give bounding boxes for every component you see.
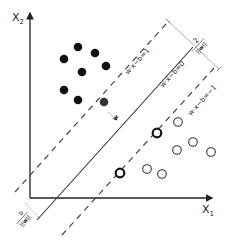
data-point bbox=[74, 96, 83, 105]
normal-vector-label: w bbox=[111, 113, 120, 122]
x-axis-label: X1 bbox=[202, 203, 214, 218]
hyperplane-equation: w·x−b=0 bbox=[159, 60, 187, 90]
svm-diagram: X2 X1 2 ||w|| b ||w|| w w·x−b=1 w·x−b=0 … bbox=[0, 0, 228, 241]
negative-class-points bbox=[116, 118, 216, 179]
offset-numerator: b bbox=[17, 209, 25, 217]
positive-class-points bbox=[60, 43, 111, 107]
support-vector-point bbox=[153, 129, 162, 138]
data-point bbox=[102, 62, 111, 71]
decision-lines bbox=[15, 24, 214, 235]
data-point bbox=[78, 68, 87, 77]
data-point bbox=[207, 148, 216, 157]
support-vector-point bbox=[100, 98, 109, 107]
lower-margin-equation: w·x−b=−1 bbox=[187, 83, 219, 117]
y-axis-label: X2 bbox=[12, 11, 24, 26]
data-point bbox=[60, 86, 69, 95]
data-point bbox=[189, 138, 198, 147]
margin-width-annotation: 2 ||w|| bbox=[166, 19, 221, 71]
data-point bbox=[158, 170, 167, 179]
upper-margin-equation: w·x−b=1 bbox=[124, 47, 152, 77]
lower-margin-line bbox=[62, 68, 214, 235]
offset-annotation: b ||w|| bbox=[11, 203, 40, 229]
data-point bbox=[173, 146, 182, 155]
data-point bbox=[74, 43, 83, 52]
data-point bbox=[174, 118, 183, 127]
support-vector-point bbox=[116, 169, 125, 178]
data-point bbox=[91, 49, 100, 58]
data-point bbox=[143, 165, 152, 174]
data-point bbox=[60, 55, 69, 64]
normal-vector-annotation: w bbox=[108, 112, 120, 122]
